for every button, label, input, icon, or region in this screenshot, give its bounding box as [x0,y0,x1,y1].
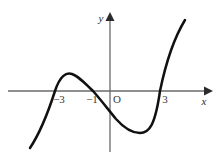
cubic-curve [30,20,185,148]
cubic-function-graph: −3 −1 3 O x y [0,0,220,163]
x-tick-label-minus-1: −1 [86,93,98,105]
origin-label: O [113,93,121,105]
x-axis-label: x [201,95,207,107]
y-axis-label: y [98,12,104,24]
y-axis-arrow-icon [106,12,115,21]
x-tick-label-3: 3 [162,93,168,105]
x-tick-label-minus-3: −3 [53,93,65,105]
plot-area: −3 −1 3 O x y [0,0,220,163]
